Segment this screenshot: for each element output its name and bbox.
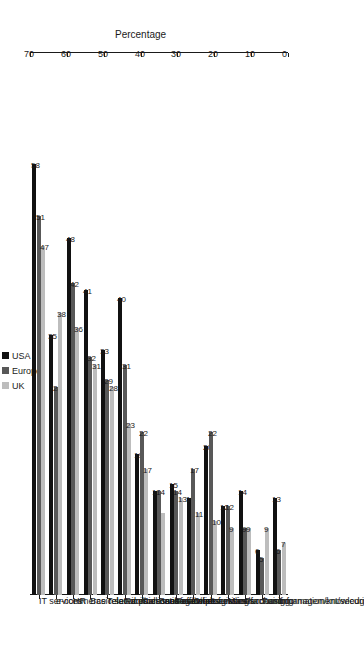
- bar-usa: [221, 506, 225, 595]
- bar-uk: [230, 528, 234, 595]
- category-tick: [56, 595, 57, 599]
- bar-europe: [226, 506, 230, 595]
- category-tick: [142, 595, 143, 599]
- bar-europe: [191, 469, 195, 595]
- bar-uk: [247, 528, 251, 595]
- bar-usa: [153, 491, 157, 595]
- bar-group: 413231: [82, 75, 99, 595]
- bar-value-label: 35: [48, 333, 57, 341]
- legend-label-uk: UK: [12, 381, 25, 391]
- axis-title-percentage: Percentage: [115, 29, 166, 40]
- bar-uk: [58, 313, 62, 595]
- bar-usa: [118, 298, 122, 595]
- bar-usa: [67, 238, 71, 595]
- axis-tick-label: 50: [98, 49, 108, 59]
- bar-uk: [110, 387, 114, 595]
- bar-uk: [75, 328, 79, 595]
- bar-value-label: 12: [225, 504, 234, 512]
- bar-group: 1414: [150, 75, 167, 595]
- legend-label-usa: USA: [12, 351, 31, 361]
- bar-value-label: 42: [70, 281, 79, 289]
- bar-usa: [84, 290, 88, 595]
- bar-usa: [135, 454, 139, 595]
- axis-tick-label: 20: [208, 49, 218, 59]
- bar-group: 1367: [271, 75, 288, 595]
- bar-usa: [170, 484, 174, 595]
- bar-usa: [32, 164, 36, 595]
- bar-uk: [144, 469, 148, 595]
- bar-value-label: 48: [66, 236, 75, 244]
- axis-tick-label: 60: [61, 49, 71, 59]
- bar-group: 192217: [133, 75, 150, 595]
- category-tick: [125, 595, 126, 599]
- chart-canvas: USA Europe UK 585147IT services352838e-c…: [0, 0, 364, 651]
- category-tick: [228, 595, 229, 599]
- bar-group: 202210: [202, 75, 219, 595]
- bar-europe: [88, 357, 92, 595]
- bar-value-label: 33: [100, 348, 109, 356]
- category-tick: [73, 595, 74, 599]
- legend-swatch-usa: [2, 352, 9, 359]
- bar-uk: [282, 543, 286, 595]
- bar-uk: [161, 513, 165, 595]
- bar-group: 659: [254, 75, 271, 595]
- bar-group: 131711: [185, 75, 202, 595]
- bar-value-label: 9: [246, 526, 250, 534]
- axis-tick-label: 10: [245, 49, 255, 59]
- bar-group: 352838: [47, 75, 64, 595]
- bar-group: 403123: [116, 75, 133, 595]
- bar-europe: [277, 550, 281, 595]
- bar-europe: [157, 491, 161, 595]
- bar-value-label: 14: [238, 489, 247, 497]
- bar-usa: [49, 335, 53, 595]
- axis-tick-label: 70: [24, 49, 34, 59]
- bar-value-label: 40: [117, 296, 126, 304]
- bar-value-label: 51: [36, 214, 45, 222]
- bar-value-label: 17: [190, 467, 199, 475]
- bar-uk: [196, 513, 200, 595]
- chart-figure: USA Europe UK 585147IT services352838e-c…: [0, 0, 364, 651]
- bar-group: 12129: [219, 75, 236, 595]
- bar-uk: [213, 521, 217, 595]
- bar-europe: [105, 380, 109, 595]
- bar-uk: [41, 246, 45, 595]
- bar-usa: [239, 491, 243, 595]
- bar-group: 1499: [236, 75, 253, 595]
- axis-tick-label: 40: [135, 49, 145, 59]
- category-tick: [90, 595, 91, 599]
- bar-value-label: 13: [272, 496, 281, 504]
- category-tick: [245, 595, 246, 599]
- bar-group: 585147: [30, 75, 47, 595]
- bar-group: 151413: [168, 75, 185, 595]
- bar-group: 484236: [64, 75, 81, 595]
- category-tick: [176, 595, 177, 599]
- bar-value-label: 41: [83, 288, 92, 296]
- bar-value-label: 58: [31, 162, 40, 170]
- category-tick: [39, 595, 40, 599]
- bar-uk: [93, 365, 97, 595]
- category-tick: [193, 595, 194, 599]
- bar-europe: [209, 432, 213, 595]
- bar-usa: [101, 350, 105, 595]
- axis-tick-label: 30: [171, 49, 181, 59]
- category-tick: [211, 595, 212, 599]
- bar-value-label: 7: [281, 541, 285, 549]
- axis-tick: [288, 53, 289, 57]
- bar-value-label: 5: [259, 556, 263, 564]
- axis-tick-label: 0: [282, 49, 287, 59]
- bar-europe: [123, 365, 127, 595]
- bar-value-label: 9: [229, 526, 233, 534]
- bar-uk: [127, 424, 131, 595]
- bar-uk: [265, 528, 269, 595]
- bar-europe: [140, 432, 144, 595]
- category-tick: [107, 595, 108, 599]
- bar-group: 332928: [99, 75, 116, 595]
- bar-europe: [174, 491, 178, 595]
- bar-value-label: 14: [156, 489, 165, 497]
- bar-value-label: 31: [122, 363, 131, 371]
- bar-europe: [54, 387, 58, 595]
- category-tick: [279, 595, 280, 599]
- bar-europe: [37, 216, 41, 595]
- plot-area: 585147IT services352838e-commerce relate…: [30, 75, 288, 595]
- legend-swatch-europe: [2, 367, 9, 374]
